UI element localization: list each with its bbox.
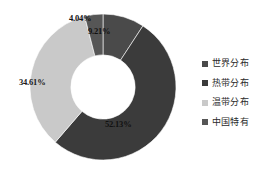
slice-label-temperate-distribution: 34.61% xyxy=(19,78,45,87)
slice-label-china-endemic: 4.04% xyxy=(69,14,91,23)
legend-swatch-icon xyxy=(202,100,208,106)
legend-swatch-icon xyxy=(202,61,208,67)
doughnut-chart: 9.21% 52.13% 34.61% 4.04% 世界分布 热带分布 温带分布… xyxy=(0,0,268,178)
legend-item-label: 温带分布 xyxy=(212,98,249,107)
chart-legend: 世界分布 热带分布 温带分布 中国特有 xyxy=(202,54,264,132)
legend-item-temperate-distribution[interactable]: 温带分布 xyxy=(202,93,264,113)
legend-item-tropical-distribution[interactable]: 热带分布 xyxy=(202,74,264,94)
legend-swatch-icon xyxy=(202,119,208,125)
legend-item-label: 中国特有 xyxy=(212,118,249,127)
legend-item-label: 热带分布 xyxy=(212,79,249,88)
slice-label-tropical-distribution: 52.13% xyxy=(105,120,131,129)
legend-swatch-icon xyxy=(202,80,208,86)
slice-label-world-distribution: 9.21% xyxy=(88,27,110,36)
legend-item-label: 世界分布 xyxy=(212,59,249,68)
legend-item-china-endemic[interactable]: 中国特有 xyxy=(202,113,264,133)
legend-item-world-distribution[interactable]: 世界分布 xyxy=(202,54,264,74)
